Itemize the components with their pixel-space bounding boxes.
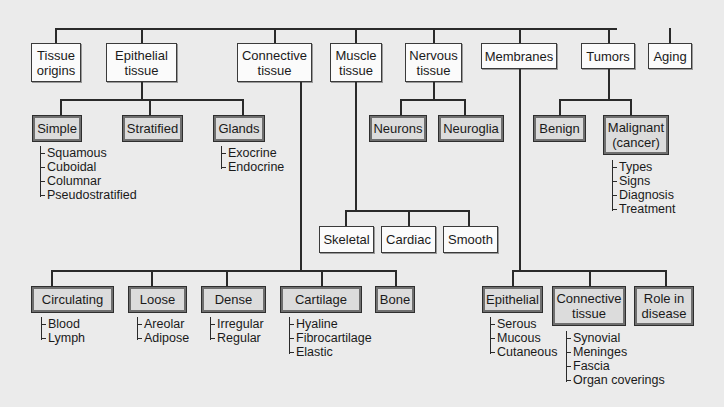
list-item: Adipose bbox=[137, 331, 189, 345]
connector bbox=[355, 82, 357, 210]
node-label: Simple bbox=[37, 121, 77, 136]
node-label: Malignant bbox=[608, 120, 664, 135]
connector bbox=[433, 28, 435, 43]
connector bbox=[559, 99, 561, 115]
list-item: Fascia bbox=[566, 359, 665, 373]
node-label: Connective bbox=[556, 291, 621, 306]
node-label: tissue bbox=[258, 63, 292, 78]
list-item: Columnar bbox=[40, 174, 137, 188]
node-label: tissue bbox=[339, 63, 373, 78]
node-label: Bone bbox=[380, 292, 410, 307]
connector bbox=[400, 99, 402, 115]
list-item: Serous bbox=[490, 317, 557, 331]
list-item: Hyaline bbox=[289, 317, 372, 331]
connector bbox=[512, 270, 514, 286]
list-item: Synovial bbox=[566, 331, 665, 345]
node-glands[interactable]: Glands bbox=[213, 115, 265, 142]
node-dense[interactable]: Dense bbox=[201, 286, 266, 313]
list-item: Irregular bbox=[210, 317, 264, 331]
list-dense-types: Irregular Regular bbox=[210, 317, 264, 345]
node-aging[interactable]: Aging bbox=[648, 43, 692, 69]
list-circulating-types: Blood Lymph bbox=[41, 317, 85, 345]
node-label: Neuroglia bbox=[443, 121, 499, 136]
node-neuroglia[interactable]: Neuroglia bbox=[438, 115, 504, 142]
list-item: Elastic bbox=[289, 345, 372, 359]
node-membranes[interactable]: Membranes bbox=[481, 43, 557, 69]
connector bbox=[665, 270, 667, 286]
connector bbox=[141, 28, 143, 43]
node-connective-tissue[interactable]: Connective tissue bbox=[237, 43, 312, 82]
node-circulating[interactable]: Circulating bbox=[31, 286, 114, 313]
connector bbox=[141, 82, 143, 99]
connector bbox=[55, 28, 57, 43]
node-tumors[interactable]: Tumors bbox=[581, 43, 635, 69]
list-item: Squamous bbox=[40, 146, 137, 160]
node-label: Circulating bbox=[42, 292, 103, 307]
node-nervous-tissue[interactable]: Nervous tissue bbox=[405, 43, 462, 82]
node-label: Epithelial bbox=[486, 292, 539, 307]
node-label: Tumors bbox=[586, 49, 630, 64]
list-item: Cutaneous bbox=[490, 345, 557, 359]
node-bone[interactable]: Bone bbox=[375, 286, 415, 313]
node-label: Membranes bbox=[485, 49, 554, 64]
node-label: Cartilage bbox=[295, 292, 347, 307]
connector bbox=[51, 270, 53, 286]
node-label: Aging bbox=[653, 49, 686, 64]
list-item: Endocrine bbox=[221, 160, 284, 174]
connector bbox=[608, 28, 610, 43]
node-label: Tissue bbox=[37, 48, 75, 63]
connector bbox=[242, 99, 244, 115]
node-connective-membranes[interactable]: Connective tissue bbox=[552, 286, 626, 326]
list-item: Signs bbox=[612, 174, 676, 188]
list-item: Mucous bbox=[490, 331, 557, 345]
node-label: Stratified bbox=[127, 121, 178, 136]
list-cartilage-types: Hyaline Fibrocartilage Elastic bbox=[289, 317, 372, 359]
list-item: Treatment bbox=[612, 202, 676, 216]
node-label: origins bbox=[37, 63, 75, 78]
list-item: Meninges bbox=[566, 345, 665, 359]
connector bbox=[630, 99, 632, 115]
node-label: Glands bbox=[218, 121, 259, 136]
list-item: Lymph bbox=[41, 331, 85, 345]
node-stratified[interactable]: Stratified bbox=[122, 115, 183, 142]
node-smooth[interactable]: Smooth bbox=[443, 226, 498, 253]
node-neurons[interactable]: Neurons bbox=[369, 115, 427, 142]
connector bbox=[355, 28, 357, 43]
connector bbox=[468, 210, 470, 226]
node-benign[interactable]: Benign bbox=[533, 115, 586, 142]
node-label: Role in bbox=[644, 291, 684, 306]
node-malignant[interactable]: Malignant (cancer) bbox=[603, 115, 669, 155]
node-epithelial-membranes[interactable]: Epithelial bbox=[482, 286, 543, 313]
connector bbox=[589, 270, 591, 286]
node-skeletal[interactable]: Skeletal bbox=[319, 226, 374, 253]
connector bbox=[395, 270, 397, 286]
connector bbox=[55, 28, 309, 30]
node-tissue-origins[interactable]: Tissue origins bbox=[31, 43, 81, 82]
connector bbox=[51, 270, 396, 272]
list-simple-types: Squamous Cuboidal Columnar Pseudostratif… bbox=[40, 146, 137, 202]
node-label: tissue bbox=[125, 63, 159, 78]
node-muscle-tissue[interactable]: Muscle tissue bbox=[330, 43, 382, 82]
node-role-in-disease[interactable]: Role in disease bbox=[634, 286, 694, 326]
connector bbox=[321, 270, 323, 286]
connector bbox=[400, 99, 465, 101]
node-label: disease bbox=[642, 306, 687, 321]
node-cartilage[interactable]: Cartilage bbox=[280, 286, 362, 313]
list-item: Diagnosis bbox=[612, 188, 676, 202]
connector bbox=[60, 99, 243, 101]
node-label: Epithelial bbox=[115, 48, 168, 63]
node-label: Connective bbox=[242, 48, 307, 63]
connector bbox=[345, 210, 347, 226]
node-label: tissue bbox=[417, 63, 451, 78]
node-label: Muscle bbox=[335, 48, 376, 63]
connector bbox=[60, 99, 62, 115]
node-label: (cancer) bbox=[612, 135, 660, 150]
list-item: Exocrine bbox=[221, 146, 284, 160]
tissue-concept-map: Tissue origins Epithelial tissue Connect… bbox=[0, 0, 724, 407]
node-cardiac[interactable]: Cardiac bbox=[381, 226, 436, 253]
node-label: Smooth bbox=[448, 232, 493, 247]
node-epithelial-tissue[interactable]: Epithelial tissue bbox=[106, 43, 177, 82]
list-item: Areolar bbox=[137, 317, 189, 331]
node-loose[interactable]: Loose bbox=[128, 286, 187, 313]
node-simple[interactable]: Simple bbox=[32, 115, 82, 142]
